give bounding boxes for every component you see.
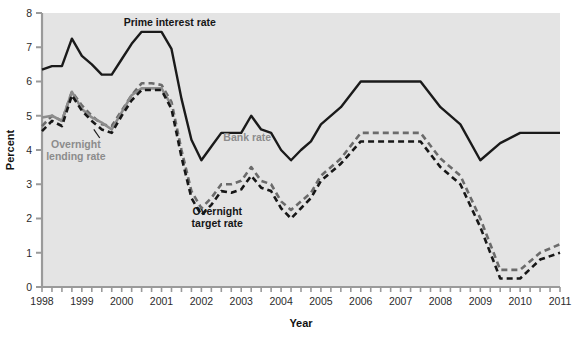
series-label-overnight-lending-rate-line1: Overnight (51, 138, 101, 150)
x-tick-label: 2000 (110, 295, 134, 307)
interest-rates-chart-figure: 012345678 199819992000200120022003200420… (0, 0, 581, 337)
y-tick-label: 2 (26, 212, 32, 224)
x-tick-label: 2005 (309, 295, 333, 307)
x-tick-label: 2004 (269, 295, 293, 307)
series-label-bank-rate: Bank rate (223, 131, 271, 143)
series-label-overnight-lending-rate-line2: lending rate (46, 150, 106, 162)
x-tick-label: 2011 (549, 295, 572, 307)
series-label-overnight-target-rate-line2: target rate (192, 217, 244, 229)
y-tick-label: 1 (26, 247, 32, 259)
y-axis-tick-labels: 012345678 (26, 7, 32, 293)
x-axis-title: Year (289, 317, 313, 329)
y-tick-label: 6 (26, 75, 32, 87)
x-tick-label: 2003 (230, 295, 254, 307)
x-axis-tick-labels: 1998199920002001200220032004200520062007… (30, 295, 571, 307)
y-tick-label: 5 (26, 110, 32, 122)
x-tick-label: 2002 (190, 295, 214, 307)
x-tick-label: 2008 (429, 295, 453, 307)
x-tick-label: 2007 (389, 295, 413, 307)
series-label-prime-interest-rate: Prime interest rate (124, 16, 216, 28)
x-tick-label: 2001 (150, 295, 174, 307)
y-tick-label: 4 (26, 144, 32, 156)
x-tick-label: 1999 (70, 295, 94, 307)
y-tick-label: 7 (26, 41, 32, 53)
x-tick-label: 2009 (469, 295, 493, 307)
chart-canvas: 012345678 199819992000200120022003200420… (0, 0, 581, 337)
x-tick-label: 2006 (349, 295, 373, 307)
x-tick-label: 2010 (508, 295, 532, 307)
y-tick-label: 0 (26, 281, 32, 293)
x-tick-label: 1998 (30, 295, 54, 307)
y-tick-label: 8 (26, 7, 32, 19)
y-axis-title: Percent (4, 129, 16, 170)
series-label-overnight-target-rate-line1: Overnight (193, 205, 243, 217)
y-tick-label: 3 (26, 178, 32, 190)
